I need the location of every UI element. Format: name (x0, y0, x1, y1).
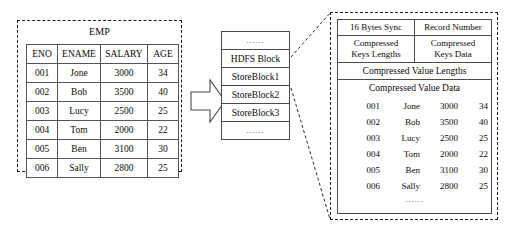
table-row: 004 Tom 2000 22 (27, 121, 179, 140)
record-cell-salary: 2800 (422, 178, 458, 194)
record-cell-salary: 2000 (422, 146, 458, 162)
emp-cell-age: 30 (148, 140, 179, 159)
emp-column-header-age: AGE (148, 45, 179, 64)
record-cell-age: 22 (458, 146, 488, 162)
emp-cell-salary: 3500 (101, 83, 148, 102)
record-cell-salary: 3500 (422, 114, 458, 130)
record-cell-age: 40 (458, 114, 488, 130)
emp-cell-eno: 001 (27, 64, 58, 83)
emp-column-header-eno: ENO (27, 45, 58, 64)
table-row: 002 Bob 3500 40 (27, 83, 179, 102)
record-layout-panel: 16 Bytes Sync Record Number Compressed K… (330, 12, 498, 220)
record-cell-age: 25 (458, 130, 488, 146)
emp-cell-age: 25 (148, 159, 179, 178)
emp-cell-ename: Jone (58, 64, 101, 83)
hdfs-row-hdfs-block: HDFS Block (222, 50, 289, 68)
emp-cell-eno: 005 (27, 140, 58, 159)
record-cell-ename: Sally (380, 178, 422, 194)
record-cell-eno: 005 (338, 162, 380, 178)
emp-column-header-ename: ENAME (58, 45, 101, 64)
table-row: 005 Ben 3100 30 (27, 140, 179, 159)
record-cell-eno: 001 (338, 98, 380, 114)
emp-table-title: EMP (18, 26, 181, 37)
hdfs-row-ellipsis-top: ...... (222, 32, 289, 50)
field-compressed-value-data: Compressed Value Data (338, 80, 491, 96)
record-cell-age: 25 (458, 178, 488, 194)
emp-cell-salary: 2800 (101, 159, 148, 178)
hdfs-row-storeblock2: StoreBlock2 (222, 86, 289, 104)
field-compressed-keys-data: Compressed Keys Data (415, 36, 491, 62)
table-row: 001 Jone 3000 34 (338, 98, 491, 114)
keys-data-line2: Keys Data (434, 49, 472, 59)
keys-lengths-line2: Keys Lengths (351, 49, 401, 59)
record-cell-eno: 003 (338, 130, 380, 146)
emp-cell-age: 34 (148, 64, 179, 83)
record-cell-salary: 3100 (422, 162, 458, 178)
table-row: 003 Lucy 2500 25 (27, 102, 179, 121)
record-cell-ename: Ben (380, 162, 422, 178)
record-bottom-ellipsis: ...... (338, 195, 491, 204)
emp-cell-age: 22 (148, 121, 179, 140)
table-row: 005 Ben 3100 30 (338, 162, 491, 178)
table-row: 001 Jone 3000 34 (27, 64, 179, 83)
record-keys-row: Compressed Keys Lengths Compressed Keys … (338, 36, 491, 63)
record-cell-ename: Bob (380, 114, 422, 130)
emp-cell-salary: 2500 (101, 102, 148, 121)
emp-cell-age: 40 (148, 83, 179, 102)
record-cell-ename: Tom (380, 146, 422, 162)
emp-column-header-salary: SALARY (101, 45, 148, 64)
emp-cell-ename: Bob (58, 83, 101, 102)
field-compressed-keys-lengths: Compressed Keys Lengths (338, 36, 415, 62)
emp-cell-eno: 004 (27, 121, 58, 140)
record-cell-eno: 006 (338, 178, 380, 194)
emp-cell-ename: Sally (58, 159, 101, 178)
emp-source-panel: EMP ENO ENAME SALARY AGE 001 Jone 3000 3… (17, 20, 182, 172)
field-record-number: Record Number (415, 20, 491, 35)
emp-cell-salary: 3000 (101, 64, 148, 83)
record-cell-eno: 004 (338, 146, 380, 162)
emp-cell-salary: 2000 (101, 121, 148, 140)
record-cell-age: 34 (458, 98, 488, 114)
field-compressed-value-lengths: Compressed Value Lengths (338, 63, 491, 80)
emp-table: ENO ENAME SALARY AGE 001 Jone 3000 34 00… (26, 44, 179, 178)
table-row: 006 Sally 2800 25 (338, 178, 491, 194)
table-row: 004 Tom 2000 22 (338, 146, 491, 162)
record-frame: 16 Bytes Sync Record Number Compressed K… (337, 19, 492, 214)
record-cell-ename: Jone (380, 98, 422, 114)
emp-cell-eno: 006 (27, 159, 58, 178)
keys-lengths-line1: Compressed (354, 38, 399, 48)
record-cell-eno: 002 (338, 114, 380, 130)
emp-cell-ename: Tom (58, 121, 101, 140)
field-16-bytes-sync: 16 Bytes Sync (338, 20, 415, 35)
hdfs-row-ellipsis-bottom: ...... (222, 122, 289, 140)
keys-data-line1: Compressed (431, 38, 476, 48)
record-cell-salary: 3000 (422, 98, 458, 114)
hdfs-block-stack: ...... HDFS Block StoreBlock1 StoreBlock… (221, 31, 290, 140)
emp-cell-ename: Ben (58, 140, 101, 159)
emp-cell-ename: Lucy (58, 102, 101, 121)
emp-table-header-row: ENO ENAME SALARY AGE (27, 45, 179, 64)
emp-cell-salary: 3100 (101, 140, 148, 159)
table-row: 002 Bob 3500 40 (338, 114, 491, 130)
record-cell-salary: 2500 (422, 130, 458, 146)
record-header-row: 16 Bytes Sync Record Number (338, 20, 491, 36)
emp-cell-eno: 002 (27, 83, 58, 102)
table-row: 003 Lucy 2500 25 (338, 130, 491, 146)
hdfs-row-storeblock3: StoreBlock3 (222, 104, 289, 122)
table-row: 006 Sally 2800 25 (27, 159, 179, 178)
record-cell-age: 30 (458, 162, 488, 178)
record-value-rows: 001 Jone 3000 34 002 Bob 3500 40 003 Luc… (338, 96, 491, 204)
emp-cell-eno: 003 (27, 102, 58, 121)
emp-cell-age: 25 (148, 102, 179, 121)
hdfs-row-storeblock1: StoreBlock1 (222, 68, 289, 86)
record-cell-ename: Lucy (380, 130, 422, 146)
